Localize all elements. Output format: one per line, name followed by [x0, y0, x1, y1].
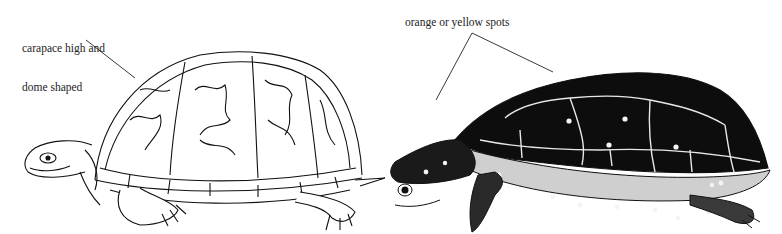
- spotted-turtle-drawing: [391, 73, 770, 232]
- illustrations: [0, 0, 782, 234]
- spots-label: orange or yellow spots: [405, 16, 509, 29]
- carapace-label-line1: carapace high and: [22, 42, 105, 55]
- turtle-comparison-figure: carapace high and dome shaped orange or …: [0, 0, 782, 234]
- carapace-label: carapace high and dome shaped: [22, 16, 105, 120]
- carapace-label-line2: dome shaped: [22, 81, 105, 94]
